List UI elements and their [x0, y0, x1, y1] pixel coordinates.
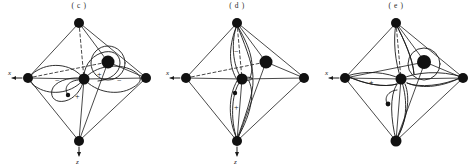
atoms-d: [181, 18, 309, 146]
z-axis-label-d: z: [233, 158, 237, 166]
sign-lower-d: +: [234, 103, 239, 112]
orbital-diagram-figure: ( c ): [0, 0, 475, 166]
panel-e: ( e ): [317, 0, 475, 166]
panel-c-drawing: x z − + − +: [0, 0, 158, 166]
x-axis-arrow-e: [329, 76, 339, 80]
x-axis-arrow-c: [12, 76, 22, 80]
x-axis-label-d: x: [165, 69, 170, 77]
sign-left-c: −: [55, 76, 60, 85]
panel-d: ( d ): [158, 0, 316, 166]
sign-center-c: +: [97, 70, 102, 79]
sign-right-c: −: [117, 76, 122, 85]
sign-left-e: +: [369, 78, 374, 87]
panel-e-drawing: x +: [317, 0, 475, 166]
z-axis-label-c: z: [75, 158, 79, 166]
atoms-c: [23, 18, 151, 146]
sign-upper-d: −: [234, 47, 239, 56]
x-axis-arrow-d: [170, 76, 180, 80]
sign-lower-c: +: [75, 92, 80, 101]
z-axis-arrow-c: [77, 147, 81, 157]
panel-c: ( c ): [0, 0, 158, 166]
panel-d-drawing: x z − +: [158, 0, 316, 166]
x-axis-label-e: x: [324, 69, 329, 77]
panel-c-label: ( c ): [0, 1, 158, 10]
x-axis-label-c: x: [7, 69, 12, 77]
panel-d-label: ( d ): [158, 1, 316, 10]
z-axis-arrow-d: [235, 147, 239, 157]
panel-e-label: ( e ): [317, 1, 475, 10]
